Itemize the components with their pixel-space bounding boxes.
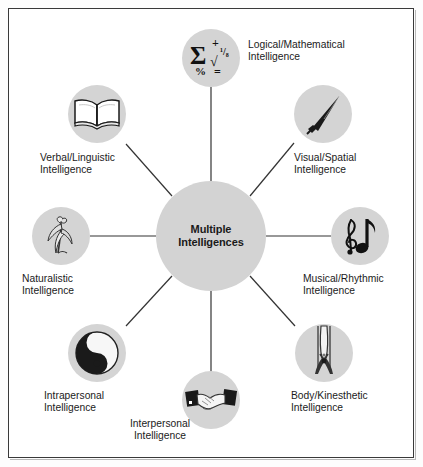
label-line1: Verbal/Linguistic	[40, 152, 115, 163]
label-visual-spatial: Visual/Spatial Intelligence	[294, 152, 356, 177]
fraction-glyph: ¹/₈	[220, 47, 229, 57]
center-label-line2: Intelligences	[178, 236, 243, 248]
label-line1: Musical/Rhythmic	[303, 273, 384, 284]
music-note-icon	[331, 207, 389, 265]
label-line1: Intrapersonal	[44, 390, 104, 401]
label-line2: Intelligence	[44, 402, 96, 413]
plus-glyph: +	[212, 37, 219, 49]
label-logical-mathematical: Logical/Mathematical Intelligence	[248, 39, 345, 64]
label-body-kinesthetic: Body/Kinesthetic Intelligence	[291, 390, 368, 415]
math-symbols-icon: Σ + ¹/₈ √ % =	[182, 29, 240, 87]
label-interpersonal: Interpersonal Intelligence	[112, 418, 208, 443]
label-line2: Intelligence	[291, 402, 343, 413]
node-visual-spatial[interactable]	[294, 85, 352, 143]
equals-glyph: =	[214, 66, 221, 78]
node-body-kinesthetic[interactable]	[295, 324, 353, 382]
node-logical-mathematical[interactable]: Σ + ¹/₈ √ % =	[182, 29, 240, 87]
label-line1: Visual/Spatial	[294, 152, 356, 163]
label-musical-rhythmic: Musical/Rhythmic Intelligence	[303, 273, 384, 298]
label-line2: Intelligence	[303, 285, 355, 296]
label-line1: Logical/Mathematical	[248, 39, 345, 50]
node-naturalistic[interactable]	[32, 207, 90, 265]
node-intrapersonal[interactable]	[68, 324, 126, 382]
paintbrush-icon	[294, 85, 352, 143]
label-line2: Intelligence	[134, 430, 186, 441]
node-verbal-linguistic[interactable]	[68, 85, 126, 143]
center-node-label: Multiple Intelligences	[178, 223, 243, 249]
node-musical-rhythmic[interactable]	[331, 207, 389, 265]
center-node-multiple-intelligences: Multiple Intelligences	[156, 181, 266, 291]
label-line1: Body/Kinesthetic	[291, 390, 368, 401]
label-line2: Intelligence	[22, 285, 74, 296]
label-naturalistic: Naturalistic Intelligence	[22, 273, 74, 298]
label-line1: Interpersonal	[130, 418, 190, 429]
multiple-intelligences-diagram: Multiple Intelligences Σ + ¹/₈ √ % = Log…	[0, 0, 423, 467]
open-book-icon	[68, 85, 126, 143]
label-verbal-linguistic: Verbal/Linguistic Intelligence	[40, 152, 115, 177]
dancer-figure-icon	[295, 324, 353, 382]
percent-glyph: %	[195, 66, 206, 77]
yin-yang-icon	[68, 324, 126, 382]
label-intrapersonal: Intrapersonal Intelligence	[44, 390, 104, 415]
flower-plant-icon	[32, 207, 90, 265]
label-line2: Intelligence	[294, 164, 346, 175]
label-line2: Intelligence	[248, 51, 300, 62]
label-line1: Naturalistic	[22, 273, 73, 284]
label-line2: Intelligence	[40, 164, 92, 175]
center-label-line1: Multiple	[191, 223, 232, 235]
